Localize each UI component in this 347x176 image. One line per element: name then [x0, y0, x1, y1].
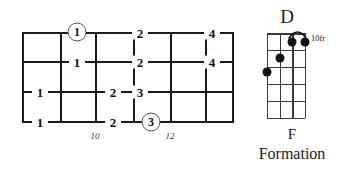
chord-name-title: D: [280, 6, 294, 28]
chord-caption-line2: Formation: [259, 145, 326, 163]
fret-position-label: 10fr: [311, 33, 325, 43]
chord-chart-canvas: 2 4 1 2 4 1 2 3 1 2 1 3 10 12 D: [0, 0, 347, 176]
chord-fret-line-2: [267, 67, 305, 68]
chord-fret-line-4: [267, 101, 305, 102]
barre-arc-icon: [287, 26, 311, 40]
chord-fret-line-1: [267, 50, 305, 51]
chord-caption-line1: F: [288, 126, 296, 143]
chord-diagram-d: D 10fr F Formation: [0, 0, 347, 176]
chord-finger-dot: [263, 68, 272, 77]
chord-fret-line-5: [267, 118, 305, 119]
chord-fret-line-3: [267, 84, 305, 85]
chord-string-line-2: [280, 33, 281, 118]
chord-finger-dot: [275, 54, 284, 63]
